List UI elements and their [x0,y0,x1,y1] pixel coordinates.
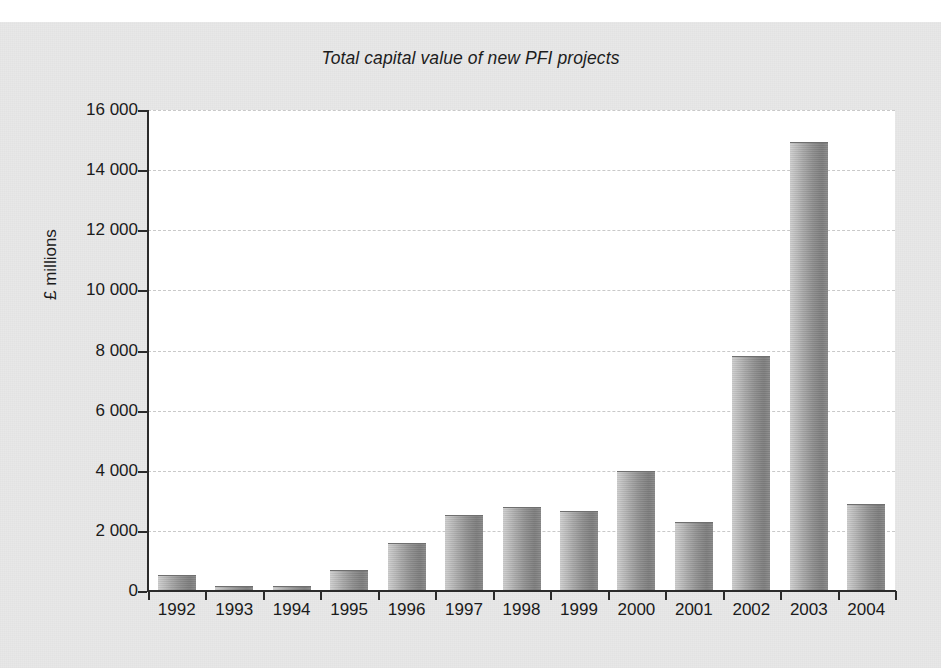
y-tick-label-12000: 12 000 [18,220,138,240]
y-tick-label-14000: 14 000 [18,160,138,180]
gridline-4000 [148,471,895,472]
bar-2002 [732,356,770,591]
x-tick-mark-2 [263,591,265,600]
x-tick-mark-6 [493,591,495,600]
gridline-12000 [148,230,895,231]
chart-title: Total capital value of new PFI projects [0,48,941,69]
x-axis-line [147,590,896,592]
x-tick-mark-8 [608,591,610,600]
x-tick-mark-7 [550,591,552,600]
y-tick-mark-14000 [138,170,147,172]
y-tick-label-4000: 4 000 [18,461,138,481]
x-tick-mark-11 [780,591,782,600]
y-axis-line [147,110,149,592]
gridline-6000 [148,411,895,412]
y-tick-mark-10000 [138,290,147,292]
y-axis-ticks: 02 0004 0006 0008 00010 00012 00014 0001… [8,0,138,668]
x-tick-mark-9 [665,591,667,600]
y-axis-title: £ millions [41,229,61,300]
y-tick-label-16000: 16 000 [18,100,138,120]
bar-1992 [158,575,196,591]
y-tick-label-10000: 10 000 [18,280,138,300]
y-tick-label-2000: 2 000 [18,521,138,541]
y-tick-label-6000: 6 000 [18,401,138,421]
gridline-10000 [148,290,895,291]
x-tick-mark-1 [205,591,207,600]
y-tick-mark-6000 [138,411,147,413]
y-tick-label-0: 0 [18,581,138,601]
x-tick-mark-0 [148,591,150,600]
y-tick-mark-4000 [138,471,147,473]
bar-1997 [445,515,483,591]
y-tick-label-8000: 8 000 [18,341,138,361]
x-tick-mark-3 [320,591,322,600]
bar-2001 [675,522,713,591]
y-tick-mark-0 [138,591,147,593]
gridline-16000 [148,110,895,111]
y-tick-mark-12000 [138,230,147,232]
y-tick-mark-16000 [138,110,147,112]
x-tick-mark-12 [838,591,840,600]
bar-2003 [790,142,828,591]
bar-2004 [847,504,885,591]
gridline-8000 [148,351,895,352]
bar-1996 [388,543,426,591]
x-tick-mark-10 [723,591,725,600]
x-tick-mark-13 [895,591,897,600]
bar-2000 [617,471,655,591]
y-tick-mark-8000 [138,351,147,353]
plot-area [148,110,895,591]
x-tick-label-2004: 2004 [831,600,901,620]
x-tick-mark-5 [435,591,437,600]
chart-page: Total capital value of new PFI projects … [0,0,941,668]
bar-1998 [503,507,541,591]
bar-1995 [330,570,368,591]
gridline-14000 [148,170,895,171]
bar-1999 [560,511,598,591]
y-tick-mark-2000 [138,531,147,533]
x-tick-mark-4 [378,591,380,600]
